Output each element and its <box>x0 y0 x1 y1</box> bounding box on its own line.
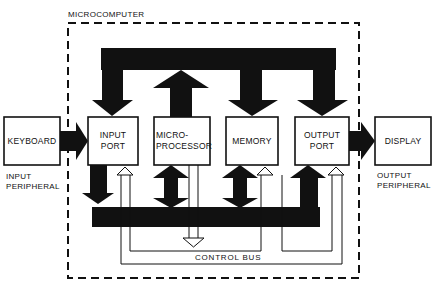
display-label: DISPLAY <box>375 136 431 147</box>
microprocessor-label-line2: PROCESSOR <box>156 141 208 152</box>
output-peripheral-line1: OUTPUT <box>377 171 431 181</box>
input-port-label-line2: PORT <box>88 141 138 152</box>
memory-label: MEMORY <box>226 136 278 147</box>
output-port-label: OUTPUT PORT <box>295 130 349 152</box>
input-peripheral-caption: INPUT PERIPHERAL <box>6 172 60 192</box>
microprocessor-label-line1: MICRO- <box>156 130 208 141</box>
microprocessor-label: MICRO- PROCESSOR <box>156 130 208 152</box>
input-peripheral-line1: INPUT <box>6 172 60 182</box>
input-port-label: INPUT PORT <box>88 130 138 152</box>
top-bus <box>92 48 348 118</box>
output-port-label-line2: PORT <box>295 141 349 152</box>
keyboard-label: KEYBOARD <box>4 136 60 147</box>
microcomputer-diagram <box>0 0 435 285</box>
control-bus-label: CONTROL BUS <box>195 253 261 263</box>
input-peripheral-line2: PERIPHERAL <box>6 182 60 192</box>
output-peripheral-line2: PERIPHERAL <box>377 181 431 191</box>
microcomputer-title: MICROCOMPUTER <box>68 10 144 20</box>
input-port-label-line1: INPUT <box>88 130 138 141</box>
output-port-label-line1: OUTPUT <box>295 130 349 141</box>
output-peripheral-caption: OUTPUT PERIPHERAL <box>377 171 431 191</box>
output-to-display-arrow <box>349 122 375 160</box>
keyboard-to-input-arrow <box>60 122 88 160</box>
